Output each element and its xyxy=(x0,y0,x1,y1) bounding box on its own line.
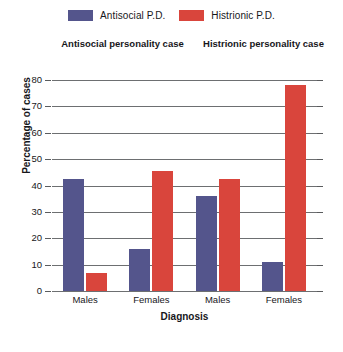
y-tick-left-10 xyxy=(45,265,51,266)
y-tick-left-60 xyxy=(45,133,51,134)
y-tick-right-60 xyxy=(317,133,323,134)
y-axis-tick-labels: 80706050403020100 xyxy=(16,80,42,291)
gridline-0 xyxy=(52,291,317,292)
x-axis-category-labels: MalesFemalesMalesFemales xyxy=(52,294,317,305)
x-category-label-1: Males xyxy=(52,294,118,305)
y-tick-left-20 xyxy=(45,238,51,239)
y-tick-label-20: 20 xyxy=(20,232,42,243)
y-tick-label-0: 0 xyxy=(20,285,42,296)
y-tick-left-0 xyxy=(45,291,51,292)
gridline-40 xyxy=(52,186,317,187)
y-tick-right-80 xyxy=(317,80,323,81)
y-tick-right-10 xyxy=(317,265,323,266)
x-axis-title: Diagnosis xyxy=(52,311,317,322)
plot-gridlines xyxy=(52,80,317,291)
y-tick-right-70 xyxy=(317,106,323,107)
gridline-30 xyxy=(52,212,317,213)
gridline-10 xyxy=(52,265,317,266)
y-tick-right-20 xyxy=(317,238,323,239)
y-tick-right-50 xyxy=(317,159,323,160)
gridline-50 xyxy=(52,159,317,160)
y-tick-label-60: 60 xyxy=(20,127,42,138)
y-tick-left-40 xyxy=(45,186,51,187)
y-tick-label-40: 40 xyxy=(20,180,42,191)
gridline-70 xyxy=(52,106,317,107)
y-tick-label-80: 80 xyxy=(20,74,42,85)
y-tick-left-30 xyxy=(45,212,51,213)
gridline-80 xyxy=(52,80,317,81)
x-category-label-3: Males xyxy=(185,294,251,305)
y-tick-left-70 xyxy=(45,106,51,107)
gridline-20 xyxy=(52,238,317,239)
y-tick-label-70: 70 xyxy=(20,100,42,111)
y-tick-right-40 xyxy=(317,186,323,187)
y-tick-label-50: 50 xyxy=(20,153,42,164)
y-tick-right-0 xyxy=(317,291,323,292)
x-category-label-4: Females xyxy=(251,294,317,305)
gridline-60 xyxy=(52,133,317,134)
y-tick-right-30 xyxy=(317,212,323,213)
y-tick-label-30: 30 xyxy=(20,206,42,217)
y-tick-left-50 xyxy=(45,159,51,160)
y-tick-left-80 xyxy=(45,80,51,81)
y-tick-label-10: 10 xyxy=(20,259,42,270)
x-category-label-2: Females xyxy=(118,294,184,305)
